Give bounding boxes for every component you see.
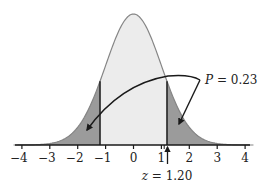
z-value-label: z = 1.20 (141, 169, 193, 183)
normal-distribution-chart: −4−3−2−101234 P = 0.23 z = 1.20 (0, 0, 262, 191)
x-tick-label: 3 (213, 151, 221, 165)
x-tick-label: 2 (185, 151, 193, 165)
arrow-to-right-tail (179, 80, 200, 124)
x-tick-label: −3 (38, 151, 56, 165)
x-axis: −4−3−2−101234 (10, 145, 250, 165)
center-area (100, 14, 167, 145)
x-tick-label: −1 (94, 151, 112, 165)
x-tick-label: −2 (66, 151, 84, 165)
x-tick-label: −4 (10, 151, 28, 165)
x-tick-label: 1 (158, 151, 166, 165)
p-value-label: P = 0.23 (204, 73, 257, 87)
x-tick-label: 0 (130, 151, 138, 165)
x-tick-label: 4 (241, 151, 249, 165)
